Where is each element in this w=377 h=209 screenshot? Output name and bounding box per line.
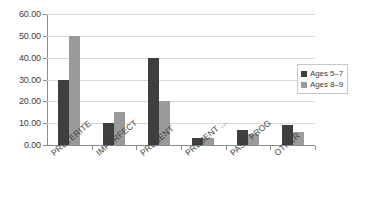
y-axis-tick: [43, 145, 47, 146]
x-axis-tick: [315, 146, 316, 150]
legend-item: Ages 8–9: [301, 79, 343, 90]
x-axis-tick: [92, 146, 93, 150]
bar-chart: 60.0050.0040.0030.0020.0010.000.00 PRETE…: [0, 0, 377, 209]
bar: [148, 58, 159, 145]
legend-label: Ages 5–7: [310, 69, 343, 78]
y-axis-tick: [43, 36, 47, 37]
y-axis-tick: [43, 101, 47, 102]
legend-item: Ages 5–7: [301, 68, 343, 79]
y-axis-tick-label: 40.00: [19, 53, 41, 63]
x-axis-tick: [136, 146, 137, 150]
x-axis-tick: [270, 146, 271, 150]
y-axis-tick-label: 50.00: [19, 31, 41, 41]
bar-group: [136, 14, 181, 145]
x-axis-tick: [226, 146, 227, 150]
y-axis-tick-label: 60.00: [19, 9, 41, 19]
y-axis-tick-label: 20.00: [19, 96, 41, 106]
legend-swatch-icon: [301, 71, 307, 77]
y-axis-tick: [43, 80, 47, 81]
y-axis-tick: [43, 58, 47, 59]
y-axis-tick-label: 10.00: [19, 118, 41, 128]
y-axis-labels: 60.0050.0040.0030.0020.0010.000.00: [0, 0, 41, 209]
legend-label: Ages 8–9: [310, 80, 343, 89]
chart-legend: Ages 5–7Ages 8–9: [297, 64, 348, 94]
legend-swatch-icon: [301, 82, 307, 88]
y-axis-tick: [43, 123, 47, 124]
y-axis-tick: [43, 14, 47, 15]
x-axis-tick: [181, 146, 182, 150]
y-axis-tick-label: 0.00: [24, 140, 41, 150]
y-axis-tick-label: 30.00: [19, 75, 41, 85]
